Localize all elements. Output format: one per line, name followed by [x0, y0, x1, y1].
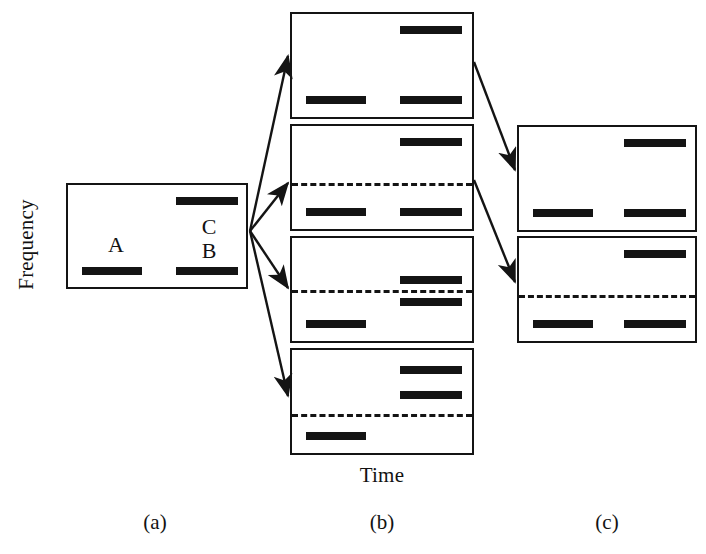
panel-b2 — [290, 124, 474, 231]
spectral-bar-below-threshold — [400, 298, 462, 306]
spectral-bar-high-right — [624, 250, 686, 258]
spectral-bar-low-left — [533, 209, 593, 217]
x-axis-label: Time — [290, 463, 474, 488]
threshold-line — [519, 295, 695, 298]
component-label-B: B — [189, 238, 229, 264]
spectral-bar-low-left — [306, 432, 366, 440]
component-label-C: C — [189, 214, 229, 240]
spectral-bar-high-right — [400, 26, 462, 34]
spectral-bar-A — [82, 267, 142, 275]
spectral-bar-low-left — [306, 208, 366, 216]
y-axis-label: Frequency — [14, 175, 39, 315]
spectral-bar-high-right — [400, 366, 462, 374]
flow-arrow-b2-to-c2 — [474, 180, 515, 282]
spectral-bar-low-right — [624, 209, 686, 217]
threshold-line — [292, 414, 472, 417]
spectral-bar-low-left — [533, 320, 593, 328]
group-caption-c: (c) — [547, 510, 667, 535]
panel-c1 — [517, 125, 697, 232]
figure-canvas: Frequency Time (a) (b) (c) ACB — [0, 0, 706, 554]
flow-arrow-a-to-b3 — [250, 231, 288, 288]
spectral-bar-B — [176, 267, 238, 275]
spectral-bar-high-right — [400, 138, 462, 146]
component-label-A: A — [96, 232, 136, 258]
spectral-bar-mid-right — [400, 391, 462, 399]
panel-b1 — [290, 12, 474, 119]
panel-b3 — [290, 236, 474, 343]
flow-arrow-a-to-b4 — [250, 231, 288, 396]
panel-b4 — [290, 348, 474, 455]
spectral-bar-above-threshold — [400, 276, 462, 284]
spectral-bar-low-left — [306, 320, 366, 328]
group-caption-a: (a) — [95, 510, 215, 535]
threshold-line — [292, 290, 472, 293]
spectral-bar-low-right — [624, 320, 686, 328]
flow-arrow-a-to-b1 — [250, 56, 288, 231]
flow-arrow-b1-to-c1 — [474, 62, 515, 170]
flow-arrow-a-to-b2 — [250, 183, 288, 231]
spectral-bar-low-left — [306, 96, 366, 104]
spectral-bar-low-right — [400, 208, 462, 216]
spectral-bar-low-right — [400, 96, 462, 104]
group-caption-b: (b) — [322, 510, 442, 535]
panel-c2 — [517, 236, 697, 343]
panel-a1: ACB — [66, 183, 248, 289]
spectral-bar-C — [176, 197, 238, 205]
spectral-bar-high-right — [624, 139, 686, 147]
threshold-line — [292, 183, 472, 186]
